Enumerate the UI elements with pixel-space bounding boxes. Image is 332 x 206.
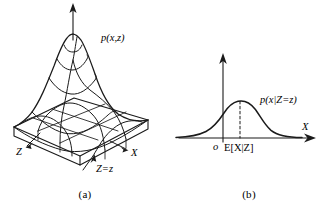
curve-label: p(x|Z=z) xyxy=(259,94,297,106)
conditional-density-curve xyxy=(176,101,302,138)
base-plate-side xyxy=(14,120,148,165)
panel-b-drawing: p(x|Z=z) X o E[X|Z] xyxy=(166,0,332,186)
base-plate-top xyxy=(14,98,148,156)
origin-label: o xyxy=(213,141,218,152)
surface-label: p(x,z) xyxy=(100,32,125,44)
slice-label: Z=z xyxy=(96,163,113,174)
panel-b-caption: (b) xyxy=(166,188,332,200)
axis-x-label: X xyxy=(130,147,138,158)
y-axis xyxy=(219,53,227,142)
panel-b-conditional-density: p(x|Z=z) X o E[X|Z] (b) xyxy=(166,0,332,206)
panel-a-caption: (a) xyxy=(0,188,170,200)
axis-z-label: Z xyxy=(16,146,22,157)
axis-x-label: X xyxy=(301,121,309,132)
panel-a-joint-density: p(x,z) Z X Z=z (a) xyxy=(0,0,170,206)
mean-label: E[X|Z] xyxy=(224,142,254,153)
panel-a-drawing: p(x,z) Z X Z=z xyxy=(0,0,170,186)
figure-container: p(x,z) Z X Z=z (a) xyxy=(0,0,332,206)
